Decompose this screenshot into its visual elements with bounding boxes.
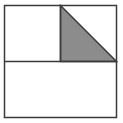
geometry-diagram — [0, 0, 123, 123]
